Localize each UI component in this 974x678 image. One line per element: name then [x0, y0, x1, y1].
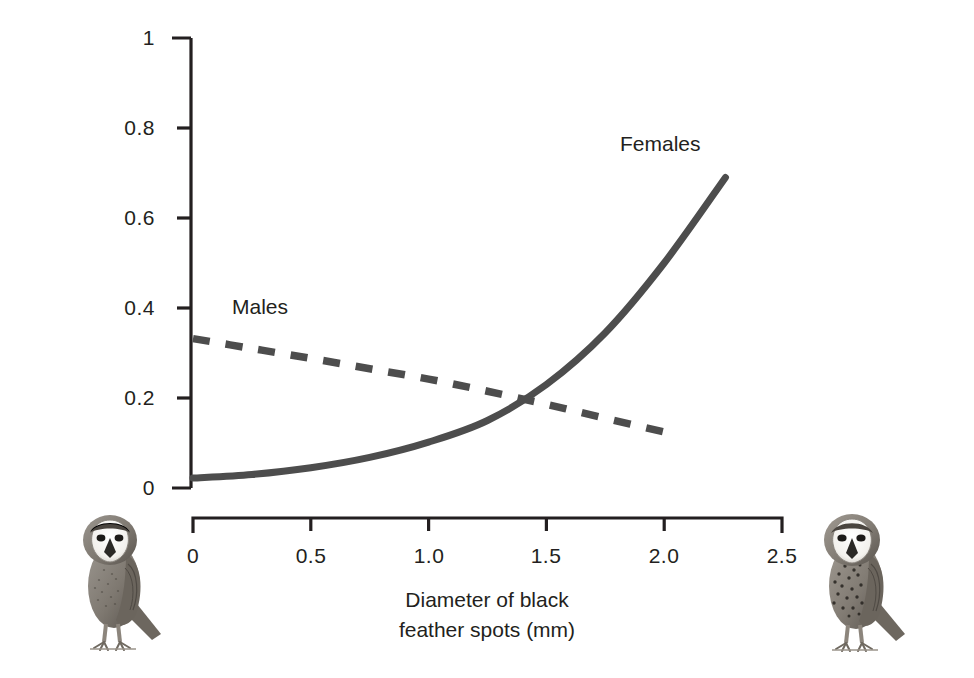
- curve-females: [193, 178, 725, 479]
- female-barn-owl-illustration: [806, 508, 910, 668]
- y-axis: [172, 38, 191, 488]
- male-barn-owl-illustration: [66, 508, 166, 668]
- chart-figure: Probability of survival in the first yea…: [0, 0, 974, 678]
- owl-drawing-female: [806, 508, 910, 668]
- curve-males: [193, 339, 669, 434]
- series-curves: [193, 178, 725, 479]
- owl-drawing-male: [66, 508, 166, 668]
- x-axis: [193, 518, 782, 533]
